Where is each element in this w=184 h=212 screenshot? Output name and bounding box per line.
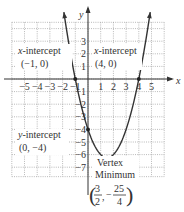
x-tick-label: 2 [111, 81, 116, 92]
y-tick-label: 2 [81, 48, 86, 59]
vertex-x-numerator: 3 [95, 183, 100, 194]
y-axis-label: y [78, 9, 84, 20]
y-tick-label: −1 [75, 86, 86, 97]
y-tick-label: −3 [75, 111, 86, 122]
annotation-vertex: Vertex Minimum ( 3 2 , − 25 4 ) [89, 156, 139, 207]
x-tick-label: −3 [45, 81, 56, 92]
y-tick-label: −5 [75, 137, 86, 148]
yint-coord: (0, −4) [19, 142, 46, 154]
vertex-y-numerator: 25 [114, 183, 124, 194]
x-tick-label: 4 [136, 81, 141, 92]
xint-right-title: x-intercept [93, 45, 137, 56]
right-paren: ) [126, 182, 133, 207]
vertex-y-denominator: 4 [117, 196, 122, 207]
curve-arrow-icon [147, 12, 152, 18]
x-intercept-right-point [137, 77, 141, 81]
annotation-y-intercept: y-intercept (0, −4) [16, 129, 68, 155]
minimum-label: Minimum [95, 169, 135, 180]
x-tick-label: −5 [19, 81, 30, 92]
xint-left-title: x-intercept [17, 45, 61, 56]
y-tick-label: −6 [75, 149, 86, 160]
vertex-comma: , [102, 191, 105, 202]
annotation-x-intercept-right: x-intercept (4, 0) [92, 44, 142, 70]
yint-title: y-intercept [17, 129, 61, 140]
y-axis-arrow-icon [86, 6, 91, 13]
x-axis-label: x [175, 75, 181, 86]
annotation-x-intercept-left: x-intercept (−1, 0) [16, 44, 72, 70]
x-tick-label: 5 [149, 81, 154, 92]
parabola-graph: x y −5−4−3−2−112345321−1−2−3−4−5−6−7 x-i… [0, 0, 184, 212]
y-tick-label: 3 [81, 36, 86, 47]
vertex-y-sign: − [106, 189, 112, 200]
y-tick-label: 1 [81, 61, 86, 72]
x-tick-label: 3 [124, 81, 129, 92]
y-tick-label: −4 [75, 124, 86, 135]
x-axis-arrow-icon [167, 77, 174, 82]
xint-right-coord: (4, 0) [95, 58, 117, 70]
curve-arrow-icon [62, 12, 67, 18]
vertex-label: Vertex [97, 157, 123, 168]
xint-left-coord: (−1, 0) [21, 58, 48, 70]
y-intercept-point [86, 127, 90, 131]
x-tick-label: 1 [98, 81, 103, 92]
x-intercept-left-point [73, 77, 77, 81]
x-tick-label: −2 [57, 81, 68, 92]
x-tick-label: −4 [32, 81, 43, 92]
y-tick-label: −7 [75, 162, 86, 173]
y-tick-label: −2 [75, 99, 86, 110]
vertex-x-denominator: 2 [95, 196, 100, 207]
